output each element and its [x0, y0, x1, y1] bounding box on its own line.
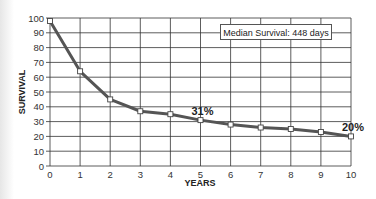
y-tick-label: 60: [33, 72, 44, 83]
x-tick-label: 1: [77, 169, 82, 180]
x-tick-label: 3: [138, 169, 143, 180]
data-point-marker: [258, 125, 263, 130]
data-point-marker: [228, 122, 233, 127]
y-tick-label: 30: [33, 116, 44, 127]
data-point-marker: [108, 97, 113, 102]
data-point-marker: [318, 129, 323, 134]
y-axis-ticks: 0102030405060708090100: [28, 13, 44, 172]
y-tick-label: 40: [33, 101, 44, 112]
y-tick-label: 10: [33, 146, 44, 157]
value-annotation: 31%: [191, 105, 213, 117]
data-point-marker: [168, 112, 173, 117]
data-point-marker: [78, 69, 83, 74]
x-tick-label: 9: [318, 169, 323, 180]
median-survival-legend: Median Survival: 448 days: [220, 24, 332, 40]
data-point-marker: [198, 118, 203, 123]
x-tick-label: 6: [228, 169, 233, 180]
y-tick-label: 80: [33, 42, 44, 53]
data-point-marker: [48, 18, 53, 23]
y-tick-label: 0: [39, 161, 44, 172]
x-tick-label: 0: [47, 169, 52, 180]
data-point-marker: [349, 134, 354, 139]
y-tick-label: 90: [33, 27, 44, 38]
y-tick-label: 50: [33, 87, 44, 98]
x-tick-label: 10: [346, 169, 357, 180]
x-tick-label: 8: [288, 169, 293, 180]
value-annotation: 20%: [342, 121, 364, 133]
x-tick-label: 2: [108, 169, 113, 180]
data-point-marker: [138, 109, 143, 114]
y-axis-title: SURVIVAL: [17, 69, 27, 114]
y-tick-label: 20: [33, 131, 44, 142]
x-axis-title: YEARS: [184, 178, 215, 188]
y-tick-label: 100: [28, 13, 44, 24]
data-point-marker: [288, 127, 293, 132]
x-tick-label: 7: [258, 169, 263, 180]
x-tick-label: 4: [168, 169, 173, 180]
y-tick-label: 70: [33, 57, 44, 68]
